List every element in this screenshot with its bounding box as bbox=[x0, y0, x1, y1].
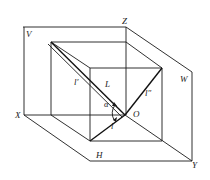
label-H: H bbox=[95, 150, 103, 160]
label-L: L bbox=[104, 79, 110, 89]
label-alpha: α bbox=[104, 99, 109, 109]
label-l: l bbox=[111, 121, 114, 131]
projection-l-prime bbox=[48, 44, 122, 117]
label-X: X bbox=[14, 110, 21, 120]
label-W: W bbox=[180, 74, 189, 84]
projection-diagram: V Z W X H Y O L l′ l″ α l bbox=[0, 0, 210, 180]
label-Z: Z bbox=[122, 16, 128, 26]
label-O: O bbox=[133, 109, 140, 119]
label-Y: Y bbox=[192, 160, 198, 170]
label-V: V bbox=[26, 29, 33, 39]
label-l-prime: l′ bbox=[74, 77, 80, 87]
projection-l-double-prime bbox=[125, 68, 162, 115]
h-plane bbox=[24, 115, 192, 161]
v-plane bbox=[23, 27, 126, 115]
projection-l bbox=[90, 115, 125, 141]
label-l-double-prime: l″ bbox=[145, 88, 152, 98]
